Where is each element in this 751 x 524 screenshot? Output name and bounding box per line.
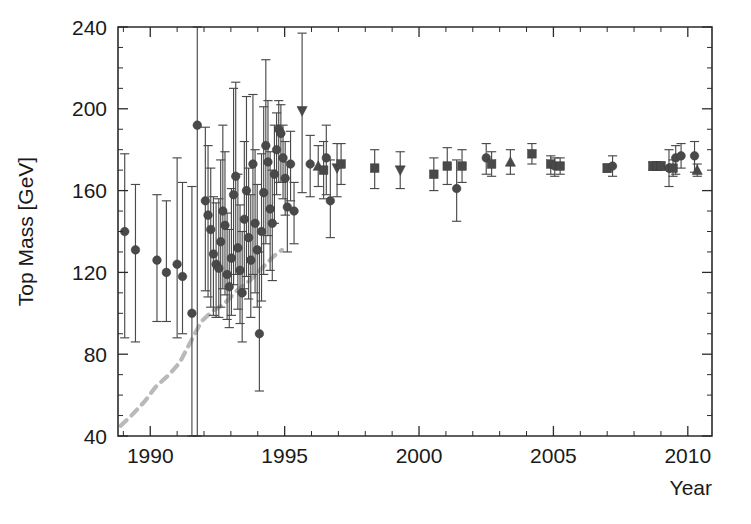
data-marker-square <box>319 166 328 175</box>
data-marker-triangle-down <box>297 107 307 117</box>
data-marker-circle <box>153 256 162 265</box>
data-marker-circle <box>209 250 218 259</box>
x-tick-label: 2005 <box>530 444 577 467</box>
data-marker-circle <box>452 184 461 193</box>
data-marker-square <box>370 164 379 173</box>
data-marker-circle <box>268 219 277 228</box>
top-mass-vs-year-chart: 199019952000200520104080120160200240Top … <box>0 0 751 524</box>
y-tick-label: 240 <box>72 16 107 39</box>
data-marker-circle <box>204 211 213 220</box>
data-marker-circle <box>240 215 249 224</box>
data-marker-circle <box>266 205 275 214</box>
data-marker-square <box>430 170 439 179</box>
data-marker-circle <box>193 121 202 130</box>
data-marker-circle <box>249 160 258 169</box>
data-marker-triangle-up <box>692 165 702 175</box>
data-marker-circle <box>326 197 335 206</box>
x-tick-label: 1990 <box>127 444 174 467</box>
data-marker-circle <box>219 207 228 216</box>
data-marker-circle <box>173 260 182 269</box>
data-marker-circle <box>242 186 251 195</box>
data-marker-circle <box>286 160 295 169</box>
data-marker-circle <box>270 170 279 179</box>
y-tick-label: 80 <box>84 343 107 366</box>
data-marker-square <box>458 162 467 171</box>
data-marker-circle <box>290 207 299 216</box>
data-marker-circle <box>257 227 266 236</box>
data-marker-circle <box>178 272 187 281</box>
x-tick-label: 2010 <box>664 444 711 467</box>
data-marker-circle <box>201 197 210 206</box>
y-tick-label: 120 <box>72 261 107 284</box>
x-axis-title: Year <box>670 476 712 499</box>
data-marker-circle <box>227 254 236 263</box>
data-marker-circle <box>281 174 290 183</box>
data-marker-circle <box>188 309 197 318</box>
data-marker-triangle-down <box>395 166 405 176</box>
data-marker-circle <box>229 190 238 199</box>
data-marker-circle <box>322 154 331 163</box>
data-marker-circle <box>234 244 243 253</box>
data-marker-circle <box>262 141 271 150</box>
data-marker-circle <box>131 246 140 255</box>
data-marker-circle <box>244 233 253 242</box>
data-marker-circle <box>246 256 255 265</box>
data-marker-circle <box>162 268 171 277</box>
data-marker-circle <box>238 289 247 298</box>
data-marker-circle <box>223 270 232 279</box>
data-marker-circle <box>690 152 699 161</box>
data-marker-circle <box>272 145 281 154</box>
data-marker-square <box>556 162 565 171</box>
data-marker-triangle-up <box>505 157 515 167</box>
data-marker-circle <box>264 158 273 167</box>
data-marker-square <box>443 162 452 171</box>
data-marker-square <box>528 149 537 158</box>
data-marker-circle <box>255 329 264 338</box>
data-marker-circle <box>216 237 225 246</box>
data-marker-circle <box>206 225 215 234</box>
data-marker-circle <box>279 154 288 163</box>
data-marker-circle <box>214 264 223 273</box>
data-marker-square <box>669 164 678 173</box>
y-tick-label: 160 <box>72 179 107 202</box>
x-tick-label: 2000 <box>396 444 443 467</box>
data-marker-square <box>487 160 496 169</box>
data-marker-circle <box>259 188 268 197</box>
data-marker-circle <box>221 221 230 230</box>
data-marker-circle <box>277 129 286 138</box>
data-marker-circle <box>677 152 686 161</box>
y-tick-label: 200 <box>72 97 107 120</box>
y-axis-title: Top Mass [GeV] <box>14 157 37 306</box>
y-tick-label: 40 <box>84 425 107 448</box>
data-marker-circle <box>253 246 262 255</box>
data-marker-circle <box>225 282 234 291</box>
x-tick-label: 1995 <box>261 444 308 467</box>
data-marker-circle <box>231 172 240 181</box>
data-marker-square <box>337 160 346 169</box>
data-marker-circle <box>236 266 245 275</box>
data-marker-circle <box>251 219 260 228</box>
data-marker-square <box>657 162 666 171</box>
figure-root: 199019952000200520104080120160200240Top … <box>0 0 751 524</box>
data-marker-circle <box>306 160 315 169</box>
data-marker-circle <box>608 162 617 171</box>
